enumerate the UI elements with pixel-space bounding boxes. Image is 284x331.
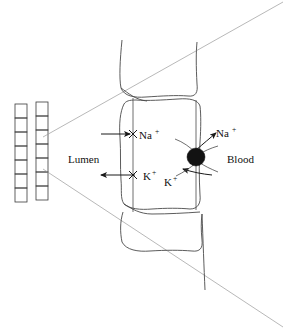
tubule-transport-diagram: Lumen Blood Na + Na + K + K + xyxy=(0,0,284,331)
label-sodium-apical-base: Na xyxy=(139,129,152,141)
sodium-potassium-pump-icon xyxy=(187,148,205,166)
label-potassium-pump-sup: + xyxy=(173,174,177,183)
label-sodium-basolateral: Na + xyxy=(216,125,236,139)
arrow-potassium-apical xyxy=(101,171,137,179)
label-sodium-basolateral-base: Na xyxy=(216,127,229,139)
label-potassium-apical-base: K xyxy=(143,170,151,182)
label-potassium-apical-sup: + xyxy=(152,168,156,177)
tubule-cell-column-left xyxy=(15,104,27,202)
label-potassium-pump: K + xyxy=(164,174,177,188)
arrow-sodium-apical xyxy=(101,130,137,138)
label-lumen: Lumen xyxy=(68,153,100,165)
epithelial-cell-upper xyxy=(120,40,197,101)
tubule-cell-column-right xyxy=(36,102,48,200)
label-potassium-pump-base: K xyxy=(164,176,172,188)
label-potassium-apical: K + xyxy=(143,168,156,182)
figure-canvas: Lumen Blood Na + Na + K + K + xyxy=(0,0,284,331)
label-sodium-apical: Na + xyxy=(139,127,159,141)
label-sodium-apical-sup: + xyxy=(155,127,159,136)
label-blood: Blood xyxy=(227,153,254,165)
label-sodium-basolateral-sup: + xyxy=(232,125,236,134)
epithelial-cell-lower xyxy=(121,204,205,290)
